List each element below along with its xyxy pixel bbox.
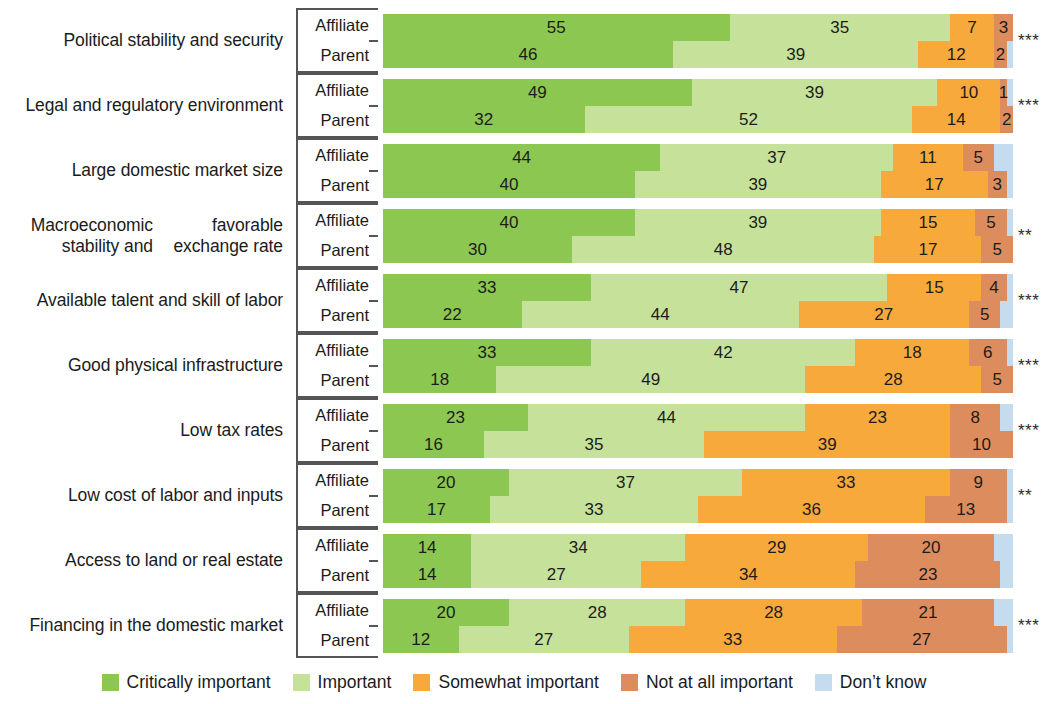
stacked-bar-parent: 122733271 <box>383 626 1013 653</box>
significance-marker: *** <box>1018 616 1039 636</box>
bar-segment-value: 40 <box>500 214 519 231</box>
series-label-column: AffiliateParent <box>296 528 378 593</box>
bar-segment: 2 <box>1000 404 1013 431</box>
bar-segment-value: 34 <box>569 539 588 556</box>
bar-segment: 21 <box>862 599 994 626</box>
bar-segment-value: 2 <box>1002 111 1011 128</box>
bar-segment: 37 <box>509 469 742 496</box>
bar-segment-value: 17 <box>427 501 446 518</box>
chart-category-row: Low cost of labor and inputsAffiliatePar… <box>0 463 1050 528</box>
bar-segment: 44 <box>383 144 660 171</box>
bar-segment-value: 11 <box>919 149 937 166</box>
significance-marker: ** <box>1018 486 1032 506</box>
bar-segment-value: 55 <box>547 19 566 36</box>
series-label-column: AffiliateParent <box>296 593 378 658</box>
bar-segment: 14 <box>383 561 471 588</box>
bar-segment: 49 <box>496 366 805 393</box>
bar-segment-value: 44 <box>512 149 531 166</box>
bar-segment: 3 <box>988 171 1007 198</box>
bar-segment-value: 16 <box>424 436 443 453</box>
stacked-bar-affiliate: 33471541 <box>383 274 1013 301</box>
bar-segment: 1 <box>1007 626 1013 653</box>
stacked-bar-parent: 46391221 <box>383 41 1013 68</box>
bar-segment: 5 <box>981 236 1013 263</box>
series-label-column: AffiliateParent <box>296 138 378 203</box>
category-label-line: Political stability and security <box>63 30 283 51</box>
bar-segment-value: 27 <box>874 306 893 323</box>
category-label: Financing in the domestic market <box>0 593 296 658</box>
category-label-line: Low cost of labor and inputs <box>68 485 283 506</box>
bar-segment-value: 2 <box>996 46 1005 63</box>
bar-segment-value: 18 <box>430 371 449 388</box>
bar-segment-value: 48 <box>714 241 733 258</box>
legend-swatch-icon <box>102 674 119 691</box>
series-label-column: AffiliateParent <box>296 203 378 268</box>
bar-segment: 23 <box>855 561 1000 588</box>
stacked-bar-parent: 30481750 <box>383 236 1013 263</box>
bar-segment-value: 14 <box>947 111 966 128</box>
bar-segment-value: 44 <box>657 409 676 426</box>
bar-segment: 1 <box>1007 274 1013 301</box>
series-label-column: AffiliateParent <box>296 73 378 138</box>
bar-segment: 3 <box>994 534 1013 561</box>
bar-segment-value: 49 <box>641 371 660 388</box>
bar-segment: 12 <box>383 626 459 653</box>
category-label-line: Access to land or real estate <box>65 550 283 571</box>
bar-segment-value: 10 <box>972 436 991 453</box>
bar-segment: 20 <box>383 469 509 496</box>
category-label-line: Legal and regulatory environment <box>25 95 283 116</box>
category-label: Good physical infrastructure <box>0 333 296 398</box>
bar-segment: 1 <box>1000 79 1006 106</box>
series-label-affiliate: Affiliate <box>298 595 378 626</box>
bar-segment: 2 <box>1000 301 1013 328</box>
bar-segment: 3 <box>994 14 1013 41</box>
bar-segment: 35 <box>730 14 951 41</box>
stacked-bar-affiliate: 23442382 <box>383 404 1013 431</box>
bar-segment: 2 <box>1000 106 1013 133</box>
bar-segment-value: 5 <box>993 241 1002 258</box>
bar-segment-value: 18 <box>903 344 922 361</box>
bar-segment: 11 <box>893 144 962 171</box>
series-label-affiliate: Affiliate <box>298 140 378 171</box>
chart-category-row: Political stability and securityAffiliat… <box>0 8 1050 73</box>
bar-segment: 36 <box>698 496 925 523</box>
bar-segment-value: 3 <box>992 176 1001 193</box>
bar-segment: 55 <box>383 14 730 41</box>
bar-segment: 4 <box>981 274 1006 301</box>
bars-column: 143429203142734232 <box>378 528 1050 593</box>
bar-segment: 35 <box>484 431 705 458</box>
bars-column: 202828213122733271*** <box>378 593 1050 658</box>
bar-segment: 40 <box>383 171 635 198</box>
legend-swatch-icon <box>815 674 832 691</box>
series-label-column: AffiliateParent <box>296 268 378 333</box>
bar-segment-value: 14 <box>418 566 437 583</box>
bar-segment-value: 1 <box>999 84 1008 101</box>
series-label-parent: Parent <box>298 236 378 267</box>
stacked-bar-affiliate: 20373391 <box>383 469 1013 496</box>
bar-segment: 1 <box>1007 496 1013 523</box>
bars-column: 4039155130481750** <box>378 203 1050 268</box>
bar-segment: 33 <box>490 496 698 523</box>
bars-column: 3347154122442752*** <box>378 268 1050 333</box>
bar-segment: 1 <box>1007 41 1013 68</box>
bar-segment-value: 21 <box>918 604 937 621</box>
bar-segment-value: 27 <box>547 566 566 583</box>
bar-segment-value: 5 <box>974 149 983 166</box>
series-label-parent: Parent <box>298 496 378 527</box>
bar-segment-value: 5 <box>986 214 995 231</box>
stacked-bar-chart: Political stability and securityAffiliat… <box>0 0 1050 704</box>
bars-column: 4939101132521420*** <box>378 73 1050 138</box>
bar-segment: 18 <box>383 366 496 393</box>
bar-segment-value: 52 <box>739 111 758 128</box>
bar-segment: 39 <box>704 431 950 458</box>
bar-segment: 27 <box>471 561 641 588</box>
bar-segment: 37 <box>660 144 893 171</box>
bar-segment-value: 12 <box>411 631 430 648</box>
series-label-column: AffiliateParent <box>296 333 378 398</box>
category-label: Legal and regulatory environment <box>0 73 296 138</box>
series-label-affiliate: Affiliate <box>298 75 378 106</box>
bar-segment-value: 37 <box>767 149 786 166</box>
bar-segment-value: 44 <box>651 306 670 323</box>
bar-segment: 1 <box>1007 469 1013 496</box>
bar-segment: 46 <box>383 41 673 68</box>
